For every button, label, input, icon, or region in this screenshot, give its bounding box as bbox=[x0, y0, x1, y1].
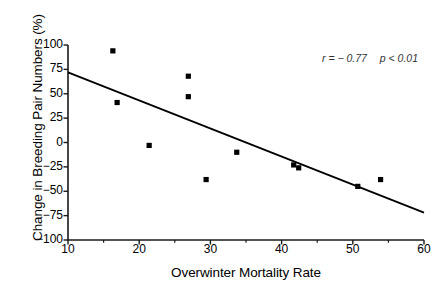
data-point bbox=[186, 74, 191, 79]
data-point bbox=[110, 48, 115, 53]
y-tick-label: 25 bbox=[50, 111, 63, 123]
x-tick-label: 10 bbox=[48, 243, 88, 255]
data-point bbox=[204, 177, 209, 182]
x-tick-label: 50 bbox=[333, 243, 373, 255]
data-point bbox=[378, 177, 383, 182]
y-tick-label: 50 bbox=[50, 87, 63, 99]
x-tick-label: 20 bbox=[119, 243, 159, 255]
scatter-plot-figure: Change in Breeding Pair Numbers (%) Over… bbox=[0, 0, 443, 300]
y-tick-label: −75 bbox=[43, 209, 63, 221]
x-tick-label: 40 bbox=[262, 243, 302, 255]
x-tick-label: 60 bbox=[404, 243, 443, 255]
y-tick-label: −25 bbox=[43, 160, 63, 172]
y-tick-label: −50 bbox=[43, 184, 63, 196]
y-tick-label: 0 bbox=[56, 136, 63, 148]
data-point bbox=[147, 143, 152, 148]
x-tick-label: 30 bbox=[190, 243, 230, 255]
data-point bbox=[291, 162, 296, 167]
data-point bbox=[296, 165, 301, 170]
data-point bbox=[186, 94, 191, 99]
regression-line bbox=[68, 72, 424, 212]
y-tick-label: 75 bbox=[50, 62, 63, 74]
data-point bbox=[234, 150, 239, 155]
data-point bbox=[115, 100, 120, 105]
data-point bbox=[355, 184, 360, 189]
y-tick-label: 100 bbox=[43, 38, 63, 50]
